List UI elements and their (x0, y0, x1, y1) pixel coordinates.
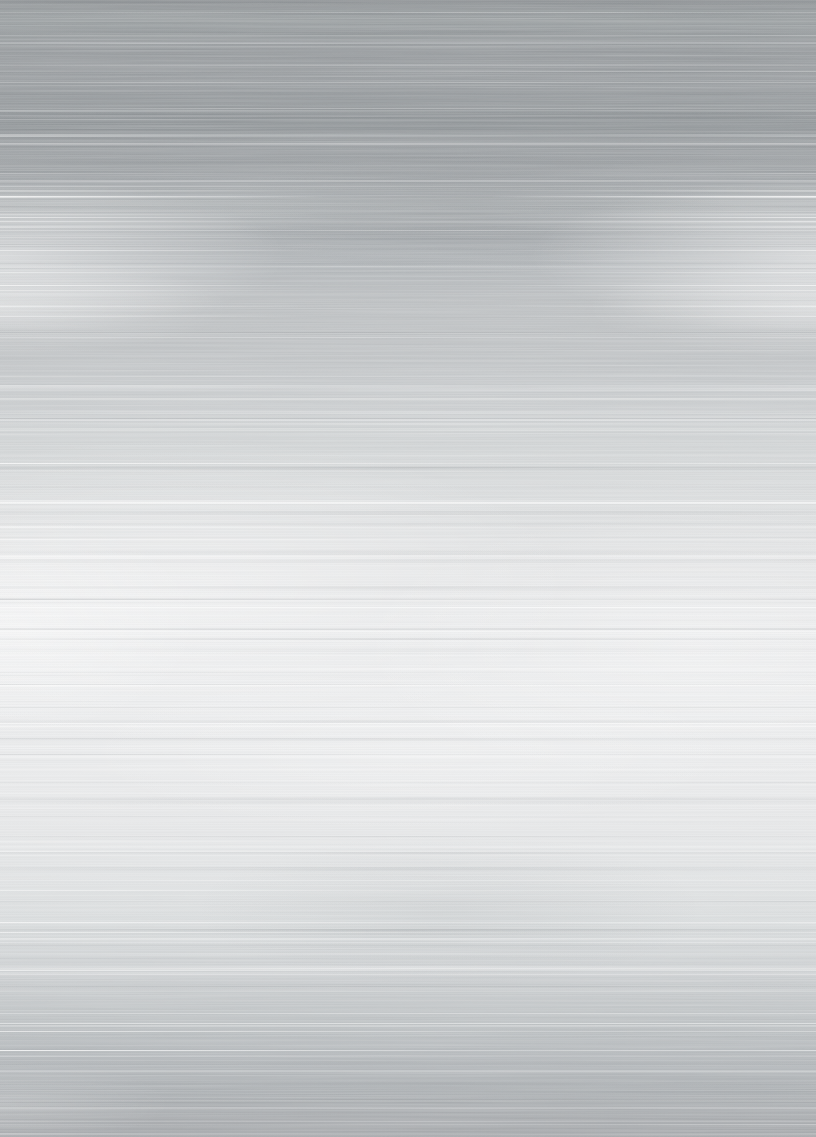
brush-streak (0, 841, 816, 842)
brush-streak (0, 1100, 816, 1102)
brush-streak (0, 769, 816, 770)
brush-streak (0, 350, 816, 351)
brush-streak (0, 701, 816, 702)
brush-streak (0, 388, 816, 389)
brush-streak (0, 268, 816, 269)
brush-streak (0, 986, 816, 988)
brush-streak (0, 148, 816, 149)
brush-streak (0, 523, 816, 527)
brush-streak (0, 44, 816, 46)
brush-streak (0, 152, 816, 153)
brush-streak (0, 539, 816, 540)
brush-streak (0, 988, 816, 989)
brush-streak (0, 85, 816, 86)
brush-streak (0, 46, 816, 48)
brush-streak (0, 469, 816, 471)
brush-streak (0, 836, 816, 837)
brush-streak (0, 521, 816, 524)
brush-streak (0, 846, 816, 848)
brush-streak (0, 972, 816, 974)
brush-streak (0, 4, 816, 5)
brush-streak (0, 398, 816, 400)
brush-streak (0, 802, 816, 805)
brush-streak (0, 267, 816, 268)
brush-streak (0, 526, 816, 528)
brush-streak (0, 171, 816, 172)
base-vertical-gradient-layer (0, 0, 816, 1137)
brush-streak (0, 481, 816, 484)
brush-streak (0, 797, 816, 800)
brush-streak (0, 628, 816, 630)
brush-streak (0, 244, 816, 245)
brush-streak (0, 945, 816, 946)
brush-streak (0, 607, 816, 608)
brush-streak (0, 958, 816, 959)
brush-streak (0, 190, 816, 192)
brush-streak (0, 168, 816, 169)
brush-streak (0, 18, 816, 19)
brush-streak (0, 306, 816, 307)
brush-streak (0, 967, 816, 969)
brush-streak (0, 1030, 816, 1031)
brush-streak (0, 300, 816, 301)
brush-streak (0, 550, 816, 553)
brush-streak (0, 589, 816, 590)
brush-streak (0, 30, 816, 35)
brush-streak (0, 30, 816, 32)
brush-streak (0, 157, 816, 163)
brush-streak (0, 12, 816, 13)
brush-streak (0, 141, 816, 144)
brush-streak (0, 654, 816, 656)
brush-streak (0, 104, 816, 106)
brush-streak (0, 652, 816, 655)
brush-streak (0, 1114, 816, 1115)
brush-streak (0, 467, 816, 468)
brush-streak (0, 1097, 816, 1098)
brush-streak (0, 620, 816, 621)
brush-streak (0, 727, 816, 728)
brush-streak (0, 633, 816, 634)
brush-streak (0, 599, 816, 600)
brush-streak (0, 201, 816, 202)
brush-streak (0, 1049, 816, 1050)
brush-streak (0, 419, 816, 421)
brush-streak (0, 855, 816, 856)
brush-streak (0, 193, 816, 194)
brush-streak (0, 615, 816, 617)
brush-streak (0, 486, 816, 488)
brush-streak (0, 867, 816, 869)
brush-streak (0, 669, 816, 670)
brush-streak (0, 509, 816, 510)
brush-streak (0, 330, 816, 331)
brush-streak (0, 116, 816, 117)
brush-streak (0, 685, 816, 687)
brush-streak (0, 500, 816, 503)
brush-streak (0, 129, 816, 131)
brush-streak (0, 305, 816, 308)
brush-streak (0, 723, 816, 724)
brush-streak (0, 112, 816, 113)
brush-streak (0, 93, 816, 95)
brush-streak (0, 1031, 816, 1032)
brush-streak (0, 557, 816, 559)
brush-streak (0, 932, 816, 933)
brush-streak (0, 419, 816, 421)
brush-streak (0, 513, 816, 515)
brush-streak (0, 434, 816, 435)
brush-streak (0, 953, 816, 955)
brush-streak (0, 131, 816, 133)
fine-grain-layer (0, 0, 816, 1137)
brush-streak (0, 586, 816, 591)
brush-streak (0, 1071, 816, 1073)
brush-streak (0, 506, 816, 508)
brush-streak (0, 211, 816, 212)
brush-streak (0, 756, 816, 758)
brush-streak (0, 929, 816, 935)
brush-streak (0, 230, 816, 231)
brush-streak (0, 672, 816, 673)
brush-streak (0, 111, 816, 116)
brush-streak (0, 1109, 816, 1110)
brush-streak (0, 760, 816, 761)
brush-streak (0, 213, 816, 214)
brush-streak (0, 1099, 816, 1103)
